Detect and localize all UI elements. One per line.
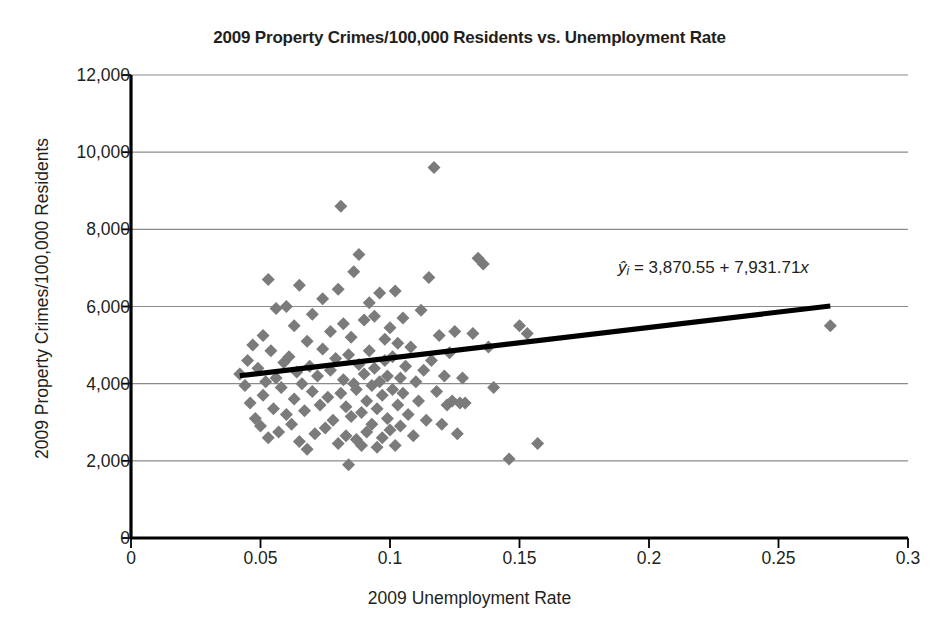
equation-intercept: 3,870.55 [649,258,715,277]
data-point [244,396,257,409]
data-point [409,375,422,388]
data-point [241,354,254,367]
x-tick-label: 0.2 [604,548,694,569]
data-point [363,296,376,309]
data-point [394,420,407,433]
data-point [368,310,381,323]
chart-title: 2009 Property Crimes/100,000 Residents v… [0,28,939,48]
data-point [345,331,358,344]
y-tick-label: 12,000 [40,65,130,86]
data-point [355,406,368,419]
trendline [240,306,831,376]
data-point [402,408,415,421]
equation-x-variable: x [800,258,809,277]
data-point [246,339,259,352]
data-point [288,393,301,406]
data-point [311,369,324,382]
equation-slope: 7,931.71 [734,258,800,277]
data-point [262,273,275,286]
data-point [430,385,443,398]
data-point [386,383,399,396]
data-point [389,439,402,452]
data-point [324,325,337,338]
data-point [267,402,280,415]
data-point [337,373,350,386]
data-point [262,431,275,444]
data-point [264,344,277,357]
x-tick-label: 0.25 [734,548,824,569]
x-axis-title: 2009 Unemployment Rate [0,588,939,609]
data-point [298,404,311,417]
data-point [378,333,391,346]
data-point [371,402,384,415]
data-point [293,279,306,292]
y-tick-label: 6,000 [40,296,130,317]
data-point [391,337,404,350]
data-point [503,452,516,465]
data-point [238,379,251,392]
data-point [487,381,500,394]
y-tick-label: 10,000 [40,142,130,163]
data-point [288,319,301,332]
y-tick-label: 2,000 [40,450,130,471]
data-point [451,427,464,440]
data-point [456,371,469,384]
data-point [337,317,350,330]
plot-area [0,0,939,634]
data-point [334,200,347,213]
x-tick-label: 0.05 [216,548,306,569]
x-tick-label: 0.1 [345,548,435,569]
data-point [347,265,360,278]
data-point [417,364,430,377]
data-point [360,395,373,408]
data-point [342,348,355,361]
scatter-chart: 2009 Property Crimes/100,000 Residents v… [0,0,939,634]
data-point [332,283,345,296]
data-point [381,412,394,425]
x-tick-label: 0.15 [475,548,565,569]
data-point [334,387,347,400]
data-point [433,329,446,342]
data-point [435,418,448,431]
data-point [407,429,420,442]
data-point [396,312,409,325]
data-point [342,458,355,471]
data-point [316,342,329,355]
data-point [428,161,441,174]
data-point [404,341,417,354]
data-point [824,319,837,332]
data-point [257,389,270,402]
data-point [316,292,329,305]
data-point [257,329,270,342]
data-point [389,285,402,298]
data-point [391,398,404,411]
equation-plus: + [720,258,730,277]
y-tick-label: 0 [40,528,130,549]
data-point [531,437,544,450]
data-point [415,304,428,317]
data-point [376,389,389,402]
data-point [308,427,321,440]
data-point [272,425,285,438]
x-tick-label: 0 [86,548,176,569]
data-point [306,308,319,321]
y-tick-label: 8,000 [40,219,130,240]
data-point [280,300,293,313]
data-point [438,369,451,382]
data-point [420,414,433,427]
data-point [399,360,412,373]
data-point [466,327,479,340]
equation-equals: = [634,258,644,277]
data-point [448,325,461,338]
data-point [394,371,407,384]
x-tick-label: 0.3 [863,548,939,569]
data-point [306,385,319,398]
data-point [368,362,381,375]
data-point [384,321,397,334]
data-point [301,335,314,348]
trendline-segment [240,306,831,376]
data-point [295,377,308,390]
data-point [422,271,435,284]
data-point [396,387,409,400]
data-point [270,302,283,315]
